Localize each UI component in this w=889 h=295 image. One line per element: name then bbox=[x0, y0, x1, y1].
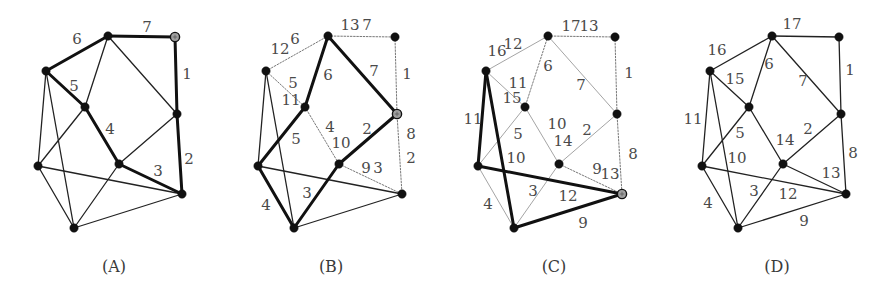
edge-b-e bbox=[175, 37, 177, 114]
edge-a-b bbox=[548, 36, 615, 37]
edge-label: 3 bbox=[302, 184, 312, 202]
edge-label: 1 bbox=[624, 64, 634, 82]
edge-c-g bbox=[702, 71, 710, 166]
edge-f-i bbox=[738, 164, 783, 228]
node-c bbox=[262, 67, 270, 75]
edge-label: 3 bbox=[749, 182, 759, 200]
edge-label: 7 bbox=[576, 76, 586, 94]
edge-label: 4 bbox=[703, 194, 713, 212]
edge-label: 2 bbox=[362, 120, 372, 138]
edge-label: 5 bbox=[291, 130, 301, 148]
node-e bbox=[613, 110, 621, 118]
edge-e-h bbox=[177, 114, 182, 194]
edge-label: 17 bbox=[782, 15, 801, 33]
node-c bbox=[42, 67, 50, 75]
edge-label: 1 bbox=[402, 65, 412, 83]
edge-label: 7 bbox=[362, 16, 372, 34]
edge-label: 10 bbox=[331, 134, 350, 152]
edge-label: 7 bbox=[369, 62, 379, 80]
node-d bbox=[745, 103, 753, 111]
edge-label: 14 bbox=[553, 132, 572, 150]
edge-label: 7 bbox=[798, 72, 808, 90]
node-f bbox=[779, 160, 787, 168]
node-b bbox=[835, 33, 843, 41]
edge-label: 16 bbox=[707, 41, 726, 59]
edge-e-h bbox=[397, 114, 402, 194]
edge-f-i bbox=[74, 164, 119, 228]
edge-label: 2 bbox=[803, 120, 813, 138]
node-g bbox=[254, 162, 262, 170]
edge-label: 13 bbox=[579, 17, 598, 35]
edge-e-h bbox=[841, 114, 846, 194]
node-a bbox=[544, 32, 552, 40]
edge-label: 8 bbox=[628, 145, 638, 163]
edge-b-e bbox=[615, 37, 617, 114]
edge-label: 9 bbox=[578, 214, 588, 232]
panel-d: 1716611571125148101331249 bbox=[683, 15, 857, 232]
node-c bbox=[482, 67, 490, 75]
caption-d: (D) bbox=[764, 257, 789, 276]
edge-i-h bbox=[74, 194, 182, 228]
edge-label: 10 bbox=[727, 149, 746, 167]
edge-label: 15 bbox=[725, 70, 744, 88]
panel-c: 1713121661117151110251481091331249 bbox=[463, 17, 637, 232]
edge-label: 1 bbox=[182, 65, 192, 83]
edge-a-e bbox=[328, 36, 397, 114]
node-d bbox=[521, 103, 529, 111]
node-i bbox=[734, 224, 742, 232]
node-i bbox=[510, 224, 518, 232]
edge-label: 12 bbox=[558, 187, 577, 205]
edge-label: 3 bbox=[528, 182, 538, 200]
node-i bbox=[290, 224, 298, 232]
node-h bbox=[842, 190, 850, 198]
edge-label: 14 bbox=[775, 131, 794, 149]
node-e bbox=[837, 110, 845, 118]
caption-a: (A) bbox=[102, 257, 126, 276]
edge-label: 13 bbox=[821, 164, 840, 182]
edge-b-e bbox=[395, 37, 397, 114]
edge-label: 9 bbox=[799, 212, 809, 230]
edge-label: 5 bbox=[69, 77, 79, 95]
caption-c: (C) bbox=[542, 257, 567, 276]
edge-e-f bbox=[119, 114, 177, 164]
edge-label: 15 bbox=[502, 89, 521, 107]
edge-label: 5 bbox=[288, 74, 298, 92]
edge-label: 10 bbox=[547, 115, 566, 133]
node-f bbox=[335, 160, 343, 168]
edge-label: 17 bbox=[561, 17, 580, 35]
node-g bbox=[34, 162, 42, 170]
node-g bbox=[474, 162, 482, 170]
edge-label: 3 bbox=[153, 162, 163, 180]
edge-a-b bbox=[108, 36, 175, 37]
node-i bbox=[70, 224, 78, 232]
edge-label: 11 bbox=[683, 110, 702, 128]
node-h bbox=[398, 190, 406, 198]
edge-a-b bbox=[328, 36, 395, 37]
node-a bbox=[104, 32, 112, 40]
node-g bbox=[698, 162, 706, 170]
node-c bbox=[706, 67, 714, 75]
edge-label: 6 bbox=[764, 55, 774, 73]
node-f bbox=[115, 160, 123, 168]
edge-label: 5 bbox=[513, 125, 523, 143]
caption-b: (B) bbox=[319, 257, 343, 276]
node-e bbox=[173, 110, 181, 118]
edge-label: 2 bbox=[406, 149, 416, 167]
node-b bbox=[611, 33, 619, 41]
edge-label: 6 bbox=[323, 66, 333, 84]
edge-label: 13 bbox=[600, 165, 619, 183]
edge-label: 8 bbox=[848, 144, 858, 162]
edge-label: 10 bbox=[506, 149, 525, 167]
edge-label: 4 bbox=[105, 120, 115, 138]
node-a bbox=[324, 32, 332, 40]
edge-c-g bbox=[258, 71, 266, 166]
panel-b: 13761216751142851029334 bbox=[254, 16, 416, 232]
edge-label: 11 bbox=[281, 91, 300, 109]
edge-label: 1 bbox=[845, 61, 855, 79]
captions: (A) (B) (C) (D) bbox=[102, 257, 790, 276]
panel-a: 7615423 bbox=[34, 18, 194, 232]
edge-f-h bbox=[119, 164, 182, 194]
edge-label: 7 bbox=[142, 18, 152, 36]
node-h bbox=[178, 190, 186, 198]
edge-b-e bbox=[839, 37, 841, 114]
